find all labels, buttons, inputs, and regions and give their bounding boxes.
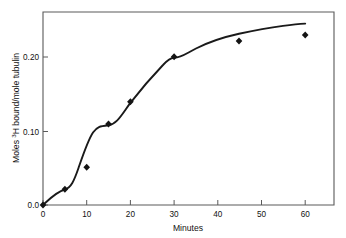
x-tick-label-6: 60 [301,210,311,219]
x-tick-label-4: 40 [213,210,223,219]
chart-plot-area: 0.0 0.10 0.20 0 10 20 30 40 50 60 Minute… [0,0,346,238]
y-axis-title: Moles 3H bound/mole tubulin [10,53,21,163]
chart-background [0,0,346,238]
x-tick-label-2: 20 [126,210,136,219]
svg-text:Moles 3H bound/mole tubulin: Moles 3H bound/mole tubulin [10,53,21,163]
y-tick-label-0: 0.0 [28,201,40,210]
x-tick-label-3: 30 [170,210,180,219]
y-tick-label-2: 0.20 [23,53,39,62]
x-axis-title: Minutes [173,223,203,233]
y-axis-title-prefix: Moles [11,138,21,163]
x-tick-label-0: 0 [41,210,46,219]
x-tick-label-5: 50 [257,210,267,219]
chart-figure: 0.0 0.10 0.20 0 10 20 30 40 50 60 Minute… [0,0,346,238]
y-axis-title-suffix: H bound/mole tubulin [11,53,21,134]
y-tick-label-1: 0.10 [23,128,39,137]
x-tick-label-1: 10 [82,210,92,219]
